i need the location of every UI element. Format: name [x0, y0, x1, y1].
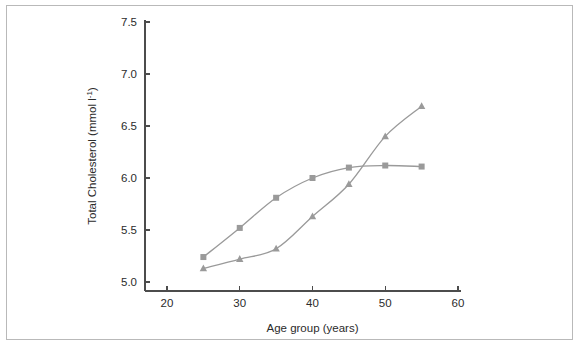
data-series [200, 102, 426, 271]
series-squares-marker [419, 164, 425, 170]
x-tick-label: 30 [233, 297, 246, 309]
y-tick-label: 5.0 [121, 276, 137, 288]
y-tick-label: 6.5 [121, 120, 137, 132]
y-tick-label: 7.5 [121, 16, 137, 28]
x-tick-label: 20 [161, 297, 174, 309]
series-squares [200, 163, 424, 261]
series-squares-marker [346, 165, 352, 171]
series-triangles-marker [418, 102, 425, 109]
series-triangles [200, 102, 426, 271]
chart-figure: 5.05.56.06.57.07.52030405060 Age group (… [0, 0, 580, 347]
x-tick-label: 50 [379, 297, 392, 309]
series-squares-marker [273, 195, 279, 201]
series-squares-marker [310, 175, 316, 181]
series-squares-marker [382, 163, 388, 169]
x-axis-title: Age group (years) [266, 322, 358, 334]
y-tick-label: 5.5 [121, 224, 137, 236]
series-squares-marker [200, 254, 206, 260]
x-tick-label: 60 [452, 297, 465, 309]
series-triangles-line [203, 106, 421, 268]
line-chart-plot: 5.05.56.06.57.07.52030405060 Age group (… [0, 0, 580, 347]
y-tick-label: 6.0 [121, 172, 137, 184]
y-axis-title: Total Cholesterol (mmol l-1) [85, 87, 98, 225]
x-tick-label: 40 [306, 297, 319, 309]
series-squares-marker [237, 225, 243, 231]
series-triangles-marker [272, 245, 279, 252]
axes: 5.05.56.06.57.07.52030405060 [121, 16, 464, 309]
y-tick-label: 7.0 [121, 68, 137, 80]
